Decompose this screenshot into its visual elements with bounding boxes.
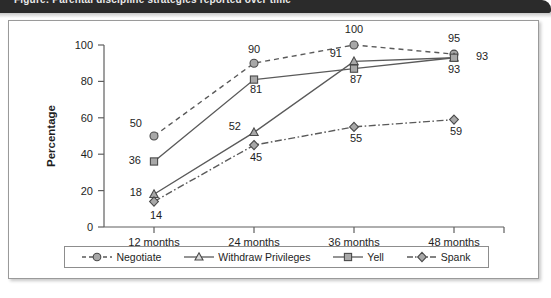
legend-item-negotiate[interactable]: Negotiate: [82, 251, 161, 263]
data-point-label: 18: [130, 186, 142, 198]
x-axis: [104, 227, 504, 233]
data-point-label: 87: [350, 73, 362, 85]
data-point-label: 93: [448, 63, 460, 75]
data-point-circle: [150, 132, 158, 140]
legend-item-yell[interactable]: Yell: [333, 251, 384, 263]
legend-label: Yell: [367, 251, 384, 263]
data-point-square: [450, 54, 457, 61]
series-line-withdraw-privileges: [154, 58, 454, 195]
legend-label: Negotiate: [116, 251, 161, 263]
negotiate-marker-icon: [82, 251, 112, 263]
data-point-diamond: [450, 115, 459, 124]
y-axis: [98, 45, 104, 227]
y-tick-label: 0: [87, 221, 93, 233]
banner-title: Figure: Parental discipline strategies r…: [14, 0, 291, 5]
y-tick-label: 60: [81, 112, 93, 124]
data-point-label: 50: [130, 117, 142, 129]
data-point-square: [350, 65, 357, 72]
data-point-label: 100: [345, 23, 363, 35]
data-point-label: 14: [150, 209, 162, 221]
data-point-label: 45: [250, 151, 262, 163]
document-header-banner: Figure: Parental discipline strategies r…: [0, 0, 551, 13]
data-point-diamond: [250, 141, 259, 150]
data-point-label: 52: [229, 120, 241, 132]
spank-marker-icon: [407, 251, 437, 263]
series-line-negotiate: [154, 45, 454, 136]
series-line-yell: [154, 58, 454, 162]
data-point-circle: [350, 41, 358, 49]
y-tick-label: 20: [81, 185, 93, 197]
legend-label: Withdraw Privileges: [218, 251, 310, 263]
data-point-label: 59: [450, 125, 462, 137]
withdraw-privileges-marker-icon: [184, 251, 214, 263]
data-point-label: 91: [330, 47, 342, 59]
data-point-label: 93: [476, 50, 488, 62]
marker-layer: [150, 41, 459, 206]
yell-marker-icon: [333, 251, 363, 263]
data-point-diamond: [350, 122, 359, 131]
series-line-spank: [154, 120, 454, 202]
data-point-label: 36: [129, 154, 141, 166]
data-point-square: [150, 158, 157, 165]
data-point-triangle: [250, 128, 258, 136]
legend-label: Spank: [441, 251, 471, 263]
y-tick-label: 100: [75, 39, 93, 51]
chart-figure: 100 80 60 40 20 0 Percentage 12 months 2…: [8, 20, 539, 279]
legend-item-spank[interactable]: Spank: [407, 251, 471, 263]
page-shadow: [0, 13, 551, 18]
series-layer: [154, 45, 454, 202]
line-chart-plot: 100 80 60 40 20 0 Percentage 12 months 2…: [9, 21, 538, 278]
legend-item-withdraw-privileges[interactable]: Withdraw Privileges: [184, 251, 310, 263]
data-point-label: 55: [350, 132, 362, 144]
data-point-label: 95: [448, 32, 460, 44]
y-tick-label: 80: [81, 75, 93, 87]
y-axis-label: Percentage: [45, 105, 57, 167]
data-point-label: 81: [250, 83, 262, 95]
data-point-diamond: [150, 197, 159, 206]
data-point-circle: [250, 59, 258, 67]
y-tick-label: 40: [81, 148, 93, 160]
screenshot-page: Figure: Parental discipline strategies r…: [0, 0, 551, 298]
data-point-label: 90: [248, 43, 260, 55]
chart-legend: Negotiate Withdraw Privileges Yell: [64, 246, 489, 268]
